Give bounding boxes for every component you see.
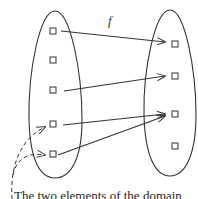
- codomain-element-3: [172, 111, 178, 117]
- codomain-element-1: [172, 41, 178, 47]
- domain-element-5: [50, 151, 56, 157]
- domain-element-4: [50, 121, 56, 127]
- mapping-arrow-d5-c3: [58, 116, 165, 155]
- domain-element-2: [50, 57, 56, 63]
- mapping-arrow-d4-c3: [63, 114, 165, 125]
- mapping-arrow-d1-c1: [61, 31, 165, 42]
- domain-element-3: [50, 87, 56, 93]
- codomain-set-ellipse: [144, 10, 196, 176]
- function-label-f: f: [108, 13, 112, 29]
- domain-element-1: [50, 28, 56, 34]
- diagram-caption: The two elements of the domain: [14, 188, 182, 199]
- codomain-element-2: [172, 73, 178, 79]
- function-mapping-diagram: [0, 0, 198, 199]
- codomain-element-4: [172, 143, 178, 149]
